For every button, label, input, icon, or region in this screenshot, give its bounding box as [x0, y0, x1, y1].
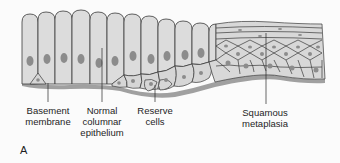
- metaplasia-diagram: [0, 0, 340, 163]
- squamous-epithelium: [209, 21, 325, 82]
- label-normal-columnar-epithelium: Normal columnar epithelium: [74, 105, 130, 138]
- label-squamous-metaplasia: Squamous metaplasia: [234, 107, 296, 129]
- label-basement-membrane: Basement membrane: [20, 105, 76, 127]
- label-reserve-cells: Reserve cells: [130, 105, 180, 127]
- panel-letter: A: [20, 144, 27, 156]
